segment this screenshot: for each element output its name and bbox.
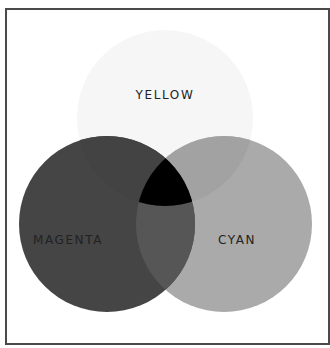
cyan-label: CYAN — [218, 233, 256, 247]
yellow-label: YELLOW — [135, 88, 195, 102]
venn-diagram: YELLOW MAGENTA CYAN — [0, 0, 330, 348]
magenta-label: MAGENTA — [33, 233, 103, 247]
